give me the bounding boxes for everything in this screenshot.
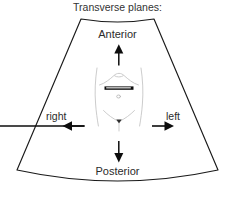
figure-title: Transverse planes: — [0, 2, 235, 13]
transverse-planes-figure: Transverse planes: Anterior Posterior ri… — [0, 0, 235, 197]
transverse-plane-bar — [105, 86, 134, 89]
right-label: right — [46, 111, 66, 122]
posterior-label: Posterior — [0, 166, 235, 177]
anterior-label: Anterior — [0, 29, 235, 40]
left-label: left — [166, 111, 180, 122]
